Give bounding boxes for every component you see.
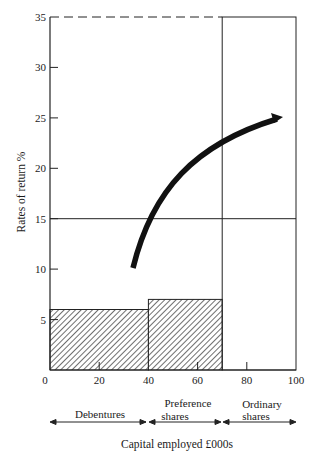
svg-text:Ordinary: Ordinary: [242, 398, 282, 410]
svg-text:10: 10: [35, 263, 47, 275]
bar-debentures: [50, 310, 148, 371]
svg-text:Preference: Preference: [164, 397, 211, 409]
svg-text:100: 100: [288, 374, 305, 386]
svg-text:80: 80: [241, 374, 253, 386]
y-axis-title: Rates of return %: [15, 151, 27, 232]
y-tick-labels: 5 10 15 20 25 30 35: [35, 11, 47, 326]
svg-text:35: 35: [35, 11, 47, 23]
rising-return-arrow: [133, 119, 277, 268]
svg-text:5: 5: [41, 314, 47, 326]
x-tick-labels: 0 20 40 60 80 100: [42, 374, 305, 386]
svg-text:30: 30: [35, 61, 47, 73]
y-ticks: [50, 67, 58, 319]
ordinary-shares-box: [222, 17, 296, 370]
svg-text:shares: shares: [161, 410, 189, 422]
bar-preference-shares: [148, 299, 222, 370]
svg-text:20: 20: [94, 374, 106, 386]
svg-text:40: 40: [143, 374, 155, 386]
svg-text:60: 60: [192, 374, 204, 386]
svg-text:25: 25: [35, 112, 47, 124]
capital-structure-chart: 5 10 15 20 25 30 35 0 20 40 60 80 100 Ra…: [0, 0, 320, 464]
svg-text:0: 0: [42, 374, 48, 386]
svg-text:shares: shares: [242, 410, 270, 422]
svg-text:20: 20: [35, 162, 47, 174]
svg-text:15: 15: [35, 213, 47, 225]
svg-text:Debentures: Debentures: [75, 408, 125, 420]
segment-labels: Debentures Preference shares Ordinary sh…: [75, 397, 282, 422]
x-axis-title: Capital employed £000s: [121, 438, 233, 451]
